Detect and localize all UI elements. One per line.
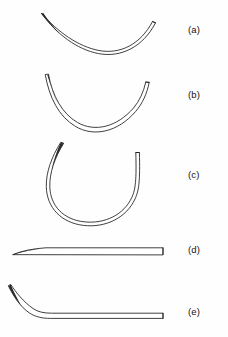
figure-label-d: (d) [188, 245, 200, 255]
figure-label-a: (a) [188, 25, 200, 35]
figure-container: (a) (b) (c) (d) (e) [0, 0, 228, 337]
label-column: (a) (b) (c) (d) (e) [0, 0, 228, 337]
figure-label-b: (b) [188, 90, 200, 100]
figure-label-c: (c) [188, 170, 200, 180]
figure-label-e: (e) [188, 307, 200, 317]
